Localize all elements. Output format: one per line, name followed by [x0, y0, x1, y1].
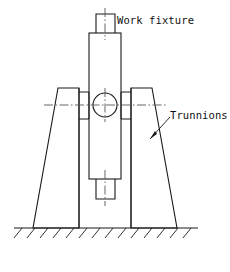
engineering-drawing: Work fixture Trunnions [0, 0, 230, 272]
work-fixture-annotation: Work fixture [117, 14, 194, 26]
right-trunnion-pin [121, 88, 131, 228]
technical-drawing-canvas: Work fixture Trunnions [0, 0, 230, 272]
bottom-stub [96, 179, 115, 199]
top-stub [96, 14, 115, 33]
ground-hatching [14, 228, 198, 238]
left-trunnion-support [33, 88, 79, 228]
trunnions-label: Trunnions [170, 109, 228, 121]
left-trunnion-pin [79, 88, 89, 228]
work-fixture-label: Work fixture [117, 14, 194, 26]
trunnions-annotation: Trunnions [150, 109, 228, 139]
